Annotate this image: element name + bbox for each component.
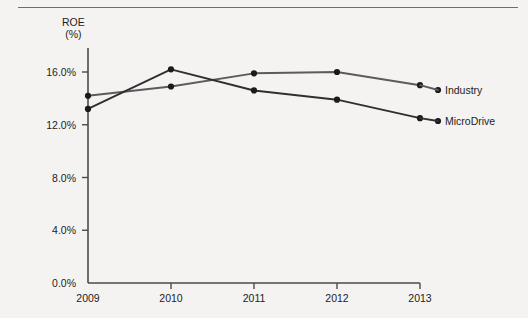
- axes-group: [88, 48, 420, 283]
- x-tick-label: 2010: [159, 292, 182, 304]
- data-point-marker: [85, 93, 91, 99]
- x-tick-label: 2013: [408, 292, 431, 304]
- data-point-marker: [85, 106, 91, 112]
- y-tick-label: 8.0%: [0, 172, 76, 184]
- data-point-marker: [168, 83, 174, 89]
- x-tick-label: 2009: [76, 292, 99, 304]
- x-tick-marks: [171, 283, 420, 289]
- y-tick-label: 16.0%: [0, 66, 76, 78]
- data-point-marker: [334, 97, 340, 103]
- data-point-marker: [251, 70, 257, 76]
- series-markers: [85, 66, 441, 124]
- series-leader-line: [420, 85, 438, 90]
- series-name-microdrive: MicroDrive: [445, 115, 495, 127]
- figure-canvas: ROE (%) 0.0%4.0%8.0%12.0%16.0% 200920102…: [0, 0, 528, 318]
- series-name-industry: Industry: [445, 84, 482, 96]
- y-tick-label: 12.0%: [0, 119, 76, 131]
- data-point-marker: [334, 69, 340, 75]
- data-point-marker: [251, 87, 257, 93]
- y-tick-label: 4.0%: [0, 224, 76, 236]
- x-tick-label: 2011: [243, 292, 266, 304]
- series-polylines: [88, 69, 420, 118]
- y-tick-label: 0.0%: [0, 277, 76, 289]
- x-tick-label: 2012: [325, 292, 348, 304]
- data-point-marker: [168, 66, 174, 72]
- roe-line-chart: [0, 0, 528, 318]
